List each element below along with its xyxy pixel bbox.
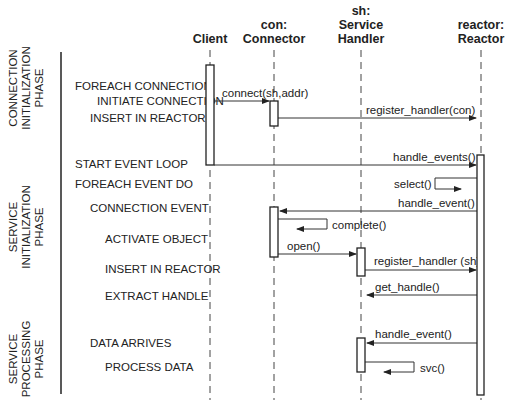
step-start-event-loop: START EVENT LOOP bbox=[75, 158, 188, 170]
svg-text:INITIALIZATION: INITIALIZATION bbox=[20, 185, 32, 269]
participant-service-handler-line1: sh: bbox=[352, 4, 371, 18]
participant-reactor-line2: Reactor bbox=[458, 32, 505, 46]
step-extract-handle: EXTRACT HANDLE bbox=[105, 290, 209, 302]
svg-text:INITIALIZATION: INITIALIZATION bbox=[20, 46, 32, 130]
step-foreach-event-do: FOREACH EVENT DO bbox=[75, 178, 193, 190]
step-initiate-connection: INITIATE CONNECTION bbox=[97, 95, 224, 107]
step-activate-object: ACTIVATE OBJECT bbox=[105, 233, 208, 245]
message-handle-event-connector-label: handle_event() bbox=[398, 197, 475, 209]
message-svc-label: svc() bbox=[420, 362, 445, 374]
message-get-handle-label: get_handle() bbox=[375, 281, 440, 293]
svg-text:CONNECTION: CONNECTION bbox=[7, 49, 19, 126]
participant-reactor: reactor: Reactor bbox=[458, 18, 505, 46]
message-complete-arrow bbox=[278, 219, 327, 229]
svg-text:SERVICE: SERVICE bbox=[7, 202, 19, 253]
step-insert-in-reactor-1: INSERT IN REACTOR bbox=[90, 112, 206, 124]
message-handle-event-sh-label: handle_event() bbox=[375, 328, 452, 340]
sequence-diagram: Client con: Connector sh: Service Handle… bbox=[0, 0, 509, 408]
message-handle-events-label: handle_events() bbox=[393, 151, 476, 163]
participant-reactor-line1: reactor: bbox=[458, 18, 505, 32]
step-data-arrives: DATA ARRIVES bbox=[90, 337, 172, 349]
message-register-handler-sh-label: register_handler (sh) bbox=[374, 255, 480, 267]
step-insert-in-reactor-2: INSERT IN REACTOR bbox=[105, 263, 221, 275]
svg-text:PROCESSING: PROCESSING bbox=[20, 321, 32, 398]
participant-client: Client bbox=[193, 32, 229, 46]
message-register-handler-con-label: register_handler(con) bbox=[366, 104, 475, 116]
message-connect-label: connect(sh,addr) bbox=[222, 87, 308, 99]
activation-reactor bbox=[477, 155, 484, 395]
participant-service-handler-line2: Service bbox=[339, 18, 384, 32]
step-foreach-connection: FOREACH CONNECTION bbox=[75, 80, 212, 92]
message-open-label: open() bbox=[287, 240, 320, 252]
message-select-arrow bbox=[435, 178, 477, 189]
step-process-data: PROCESS DATA bbox=[105, 361, 194, 373]
step-connection-event: CONNECTION EVENT bbox=[90, 202, 209, 214]
message-complete-label: complete() bbox=[332, 219, 386, 231]
activation-service-handler-2 bbox=[357, 338, 365, 372]
phase-label-service-init: SERVICE INITIALIZATION PHASE bbox=[7, 185, 45, 269]
message-select-label: select() bbox=[394, 178, 432, 190]
participant-service-handler-line3: Handler bbox=[338, 32, 385, 46]
phase-label-service-processing: SERVICE PROCESSING PHASE bbox=[7, 321, 45, 398]
participant-connector-line1: con: bbox=[261, 18, 287, 32]
activation-service-handler-1 bbox=[357, 248, 365, 276]
activation-client bbox=[206, 65, 214, 165]
activation-connector-1 bbox=[270, 101, 278, 126]
participant-client-label: Client bbox=[193, 32, 229, 46]
activation-connector-2 bbox=[270, 207, 278, 257]
svg-text:SERVICE: SERVICE bbox=[7, 334, 19, 385]
phase-label-connection-init: CONNECTION INITIALIZATION PHASE bbox=[7, 46, 45, 130]
message-svc-arrow bbox=[365, 362, 414, 372]
participant-service-handler: sh: Service Handler bbox=[338, 4, 385, 46]
participant-connector: con: Connector bbox=[243, 18, 306, 46]
participant-connector-line2: Connector bbox=[243, 32, 306, 46]
svg-text:PHASE: PHASE bbox=[33, 68, 45, 107]
svg-text:PHASE: PHASE bbox=[33, 339, 45, 378]
svg-text:PHASE: PHASE bbox=[33, 207, 45, 246]
